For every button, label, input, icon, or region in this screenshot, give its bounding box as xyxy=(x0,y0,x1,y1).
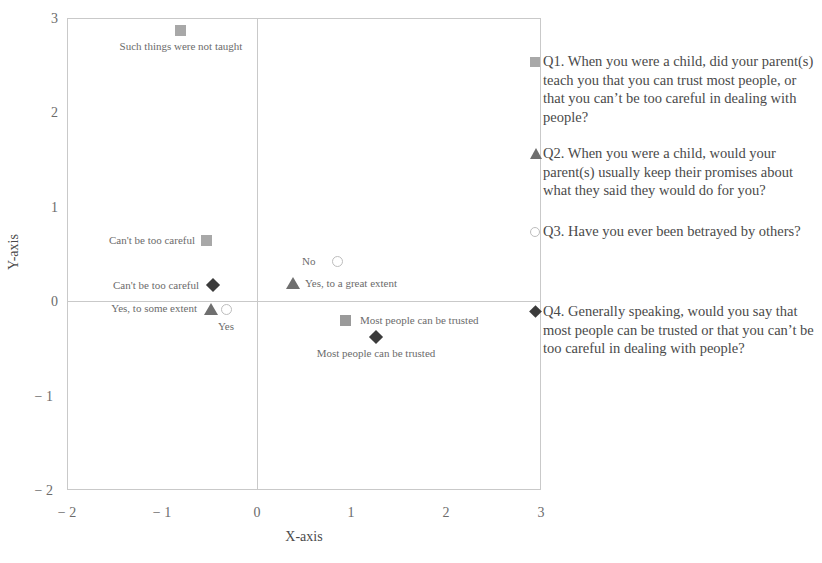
x-axis-title: X-axis xyxy=(0,529,608,545)
data-label-q1-cant-be-too-careful: Can't be too careful xyxy=(31,234,195,246)
data-point-q3-yes[interactable] xyxy=(221,304,232,315)
x-tick-label-2: 2 xyxy=(416,505,476,521)
legend-item-q2[interactable]: Q2. When you were a child, would your pa… xyxy=(530,144,818,200)
triangle-marker-icon xyxy=(530,148,542,159)
square-marker-icon xyxy=(530,57,540,67)
data-point-q1-most-people-can-be-trusted[interactable] xyxy=(340,315,351,326)
legend-item-q4[interactable]: Q4. Generally speaking, would you say th… xyxy=(530,302,818,358)
data-point-q1-cant-be-too-careful[interactable] xyxy=(201,235,212,246)
data-point-q2-yes-to-a-great-extent[interactable] xyxy=(286,277,300,289)
x-tick-label-0: 0 xyxy=(227,505,287,521)
y-tick-label-2: 2 xyxy=(18,105,58,121)
data-point-q3-no[interactable] xyxy=(332,256,343,267)
data-label-yes-to-some-extent: Yes, to some extent xyxy=(31,302,197,314)
data-label-no: No xyxy=(302,255,328,267)
x-tick-label-neg1: − 1 xyxy=(132,505,192,521)
circle-marker-icon xyxy=(530,227,540,237)
legend-label-q3: Q3. Have you ever been betrayed by other… xyxy=(543,222,818,241)
x-tick-label-3: 3 xyxy=(511,505,571,521)
y-tick-label-3: 3 xyxy=(18,11,58,27)
diamond-marker-icon xyxy=(529,305,542,318)
legend-label-q2: Q2. When you were a child, would your pa… xyxy=(543,144,818,200)
data-point-q2-yes-to-some-extent[interactable] xyxy=(204,303,218,315)
plot-frame xyxy=(67,18,541,490)
y-tick-label-neg1: − 1 xyxy=(13,389,53,405)
data-label-q4-cant-be-too-careful: Can't be too careful xyxy=(31,279,199,291)
vertical-zero-axis-line xyxy=(257,18,258,490)
legend: Q1. When you were a child, did your pare… xyxy=(530,52,818,372)
legend-label-q4: Q4. Generally speaking, would you say th… xyxy=(543,302,818,358)
data-label-yes: Yes xyxy=(190,320,262,332)
scatter-plot-figure: − 2 − 1 0 1 2 3 3 2 1 0 − 1 − 2 X-axis Y… xyxy=(0,0,822,563)
data-label-yes-to-a-great-extent: Yes, to a great extent xyxy=(305,277,475,289)
data-label-q4-most-people-can-be-trusted: Most people can be trusted xyxy=(283,347,469,359)
legend-item-q1[interactable]: Q1. When you were a child, did your pare… xyxy=(530,52,818,126)
y-tick-label-1: 1 xyxy=(18,200,58,216)
x-tick-label-neg2: − 2 xyxy=(37,505,97,521)
data-label-such-things-not-taught: Such things were not taught xyxy=(81,40,281,52)
data-point-q1-such-things-not-taught[interactable] xyxy=(175,25,186,36)
y-tick-label-neg2: − 2 xyxy=(13,483,53,499)
legend-item-q3[interactable]: Q3. Have you ever been betrayed by other… xyxy=(530,222,818,241)
data-label-q1-most-people-can-be-trusted: Most people can be trusted xyxy=(360,314,546,326)
legend-label-q1: Q1. When you were a child, did your pare… xyxy=(543,52,818,126)
y-axis-title: Y-axis xyxy=(6,212,22,292)
x-tick-label-1: 1 xyxy=(321,505,381,521)
